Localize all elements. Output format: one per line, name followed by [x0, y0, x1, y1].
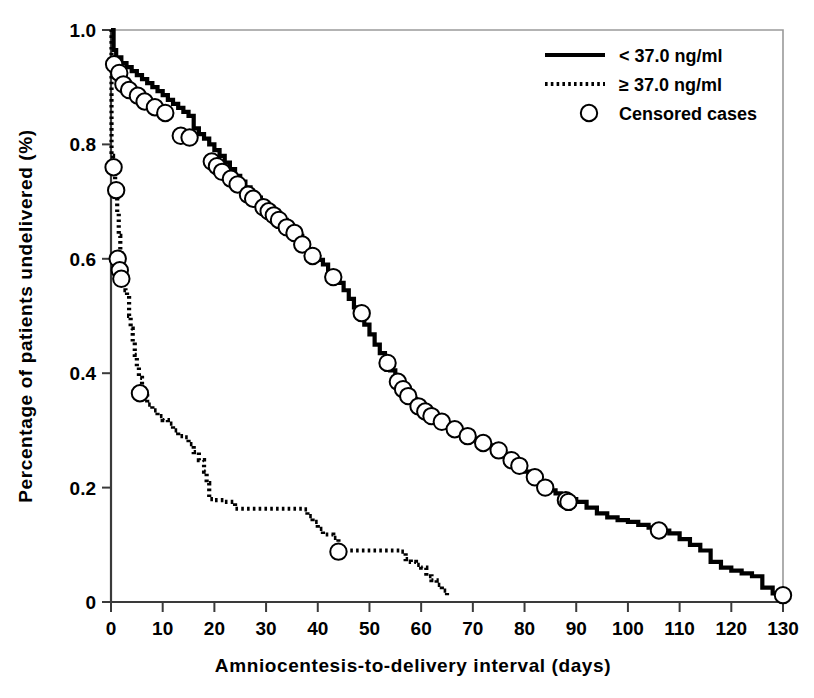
censored-marker-1-4 — [113, 271, 129, 287]
y-tick-label-1: 0.2 — [70, 478, 96, 499]
y-tick-label-2: 0.4 — [70, 363, 97, 384]
legend-label-2: Censored cases — [619, 104, 757, 124]
legend-swatch-open-circle — [581, 105, 597, 121]
x-tick-label-1: 10 — [152, 618, 173, 639]
x-tick-label-7: 70 — [462, 618, 483, 639]
y-tick-label-5: 1.0 — [70, 20, 96, 41]
x-axis-ticks: 0102030405060708090100110120130 — [106, 602, 799, 639]
survival-curve-chart: 00.20.40.60.81.0 01020304050607080901001… — [0, 0, 814, 698]
x-tick-label-2: 20 — [204, 618, 225, 639]
censored-marker-1-0 — [105, 159, 121, 175]
x-tick-label-6: 60 — [411, 618, 432, 639]
kaplan-meier-figure: 00.20.40.60.81.0 01020304050607080901001… — [0, 0, 814, 698]
y-tick-label-3: 0.6 — [70, 249, 96, 270]
censored-marker-0-25 — [325, 269, 341, 285]
censored-marker-0-45 — [651, 522, 667, 538]
censored-marker-0-9 — [181, 129, 197, 145]
x-tick-label-9: 90 — [566, 618, 587, 639]
censored-marker-1-1 — [108, 182, 124, 198]
censored-marker-0-36 — [459, 428, 475, 444]
legend-label-1: ≥ 37.0 ng/ml — [619, 75, 722, 95]
x-tick-label-13: 130 — [767, 618, 799, 639]
censored-marker-0-46 — [775, 587, 791, 603]
x-tick-label-8: 80 — [514, 618, 535, 639]
censored-marker-1-5 — [132, 385, 148, 401]
y-tick-label-4: 0.8 — [70, 134, 96, 155]
censored-marker-0-27 — [379, 355, 395, 371]
censored-marker-0-44 — [560, 494, 576, 510]
x-tick-label-10: 100 — [612, 618, 644, 639]
legend-label-0: < 37.0 ng/ml — [619, 46, 723, 66]
y-axis-title: Percentage of patients undelivered (%) — [15, 129, 36, 502]
x-tick-label-11: 110 — [664, 618, 695, 639]
x-tick-label-4: 40 — [307, 618, 328, 639]
y-tick-label-0: 0 — [85, 592, 96, 613]
x-axis-title: Amniocentesis-to-delivery interval (days… — [215, 655, 611, 676]
censored-marker-0-37 — [475, 435, 491, 451]
censored-marker-0-7 — [157, 105, 173, 121]
censored-marker-1-6 — [330, 543, 346, 559]
x-tick-label-0: 0 — [106, 618, 117, 639]
x-tick-label-5: 50 — [359, 618, 380, 639]
censored-marker-0-24 — [304, 248, 320, 264]
y-axis-ticks: 00.20.40.60.81.0 — [70, 20, 111, 613]
censored-marker-0-26 — [354, 305, 370, 321]
chart-legend: < 37.0 ng/ml≥ 37.0 ng/mlCensored cases — [545, 46, 757, 124]
x-tick-label-3: 30 — [256, 618, 277, 639]
censored-marker-0-42 — [537, 479, 553, 495]
x-tick-label-12: 120 — [715, 618, 747, 639]
censored-marker-0-40 — [511, 458, 527, 474]
